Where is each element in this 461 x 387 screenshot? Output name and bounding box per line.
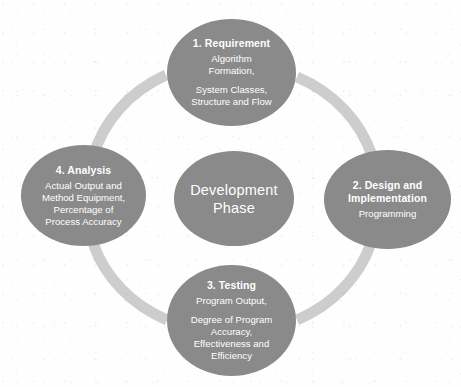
node-requirement-title: 1. Requirement bbox=[193, 37, 270, 50]
node-testing-title: 3. Testing bbox=[207, 279, 256, 292]
node-requirement-line-2: System Classes, Structure and Flow bbox=[191, 84, 272, 108]
node-testing-line-1: Program Output, bbox=[196, 295, 267, 307]
node-design-and-implementation[interactable]: 2. Design and Implementation Programming bbox=[324, 150, 451, 249]
node-analysis[interactable]: 4. Analysis Actual Output and Method Equ… bbox=[21, 145, 146, 246]
node-design-line-1: Programming bbox=[359, 208, 417, 220]
node-requirement-line-1: Algorithm Formation, bbox=[209, 53, 255, 77]
node-design-title: 2. Design and Implementation bbox=[348, 179, 427, 205]
node-development-phase-label: Development Phase bbox=[190, 181, 278, 217]
arc-design-to-testing bbox=[297, 243, 371, 320]
node-analysis-line-1: Actual Output and Method Equipment, Perc… bbox=[42, 180, 125, 228]
node-testing[interactable]: 3. Testing Program Output, Degree of Pro… bbox=[167, 265, 296, 376]
node-development-phase[interactable]: Development Phase bbox=[174, 151, 294, 246]
node-testing-line-2: Degree of Program Accuracy, Effectivenes… bbox=[191, 314, 273, 362]
node-analysis-title: 4. Analysis bbox=[56, 164, 112, 177]
node-requirement[interactable]: 1. Requirement Algorithm Formation, Syst… bbox=[167, 19, 296, 126]
arc-requirement-to-design bbox=[297, 77, 372, 156]
arc-analysis-to-requirement bbox=[93, 75, 166, 157]
development-phase-cycle-diagram: 1. Requirement Algorithm Formation, Syst… bbox=[0, 0, 461, 387]
arc-testing-to-analysis bbox=[93, 243, 167, 320]
